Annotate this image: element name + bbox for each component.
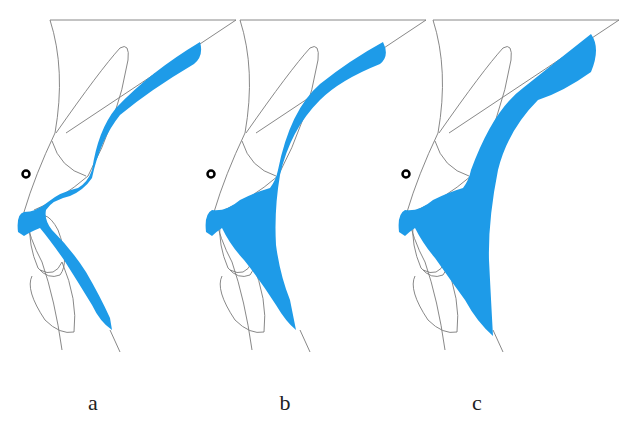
marker-b [208,171,215,178]
label-c: c [472,390,482,416]
label-a: a [88,390,98,416]
diagram-canvas [0,0,636,421]
panel-b [206,20,426,352]
label-b: b [280,390,291,416]
panel-c [399,20,619,352]
marker-c [403,171,410,178]
blue-region-a [18,42,202,330]
marker-a [23,171,30,178]
blue-region-c [399,34,596,336]
blue-region-b [206,42,386,330]
panel-a [18,20,236,352]
